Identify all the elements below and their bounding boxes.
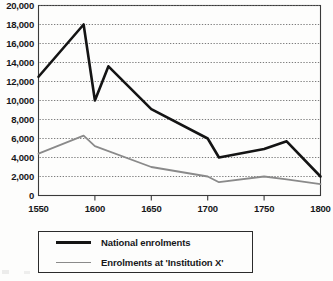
x-tick-label: 1700 — [188, 203, 228, 214]
legend-item-national: National enrolments — [39, 232, 252, 253]
scan-artifact-left — [2, 270, 9, 274]
y-tick-label: 12,000 — [0, 76, 34, 87]
x-tick-label: 1750 — [244, 203, 284, 214]
x-tick-label: 1650 — [131, 203, 171, 214]
y-tick-label: 0 — [0, 190, 34, 201]
x-tick-label: 1550 — [19, 203, 59, 214]
y-tick-label: 14,000 — [0, 57, 34, 68]
legend-item-institution: Enrolments at 'Institution X' — [39, 252, 252, 273]
y-tick-label: 10,000 — [0, 95, 34, 106]
legend-label-national: National enrolments — [101, 237, 190, 248]
legend-label-institution: Enrolments at 'Institution X' — [101, 257, 223, 268]
y-tick-label: 8,000 — [0, 114, 34, 125]
legend-swatch-national-icon — [56, 241, 91, 244]
y-tick-label: 2,000 — [0, 171, 34, 182]
x-tick-label: 1800 — [301, 203, 333, 214]
y-tick-label: 16,000 — [0, 38, 34, 49]
y-tick-label: 6,000 — [0, 133, 34, 144]
y-tick-label: 18,000 — [0, 19, 34, 30]
chart-figure: 02,0004,0006,0008,00010,00012,00014,0001… — [0, 0, 333, 281]
y-tick-label: 4,000 — [0, 152, 34, 163]
x-tick-label: 1600 — [75, 203, 115, 214]
legend-swatch-institution-icon — [56, 262, 91, 264]
scan-artifact-right — [24, 271, 30, 274]
x-tick-marks — [95, 196, 264, 201]
chart-legend: National enrolments Enrolments at 'Insti… — [38, 231, 253, 273]
y-tick-label: 20,000 — [0, 0, 34, 11]
